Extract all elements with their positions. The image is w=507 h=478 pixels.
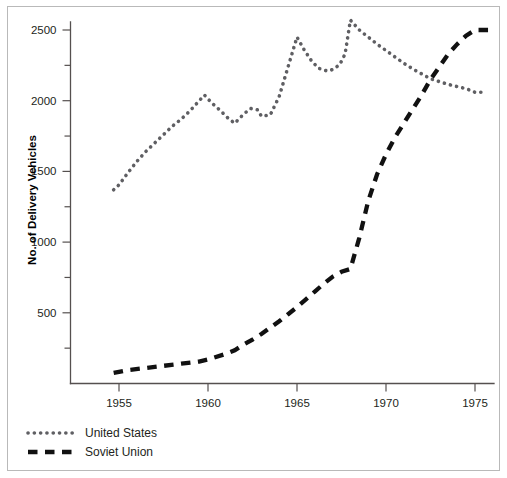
legend-label-soviet-union: Soviet Union	[85, 445, 153, 459]
y-axis-ticks	[63, 30, 71, 348]
x-axis-ticks	[119, 384, 475, 392]
chart-plot-area: 5001000150020002500 19551960196519701975…	[0, 0, 507, 478]
x-tick-label: 1975	[462, 397, 488, 409]
x-tick-label: 1955	[106, 397, 132, 409]
y-tick-label: 2500	[31, 24, 57, 36]
series-line-soviet-union	[114, 30, 493, 373]
chart-legend: United States Soviet Union	[28, 426, 157, 459]
x-tick-label: 1960	[195, 397, 221, 409]
series-line-united-states	[114, 20, 484, 190]
chart-figure: 5001000150020002500 19551960196519701975…	[0, 0, 507, 478]
y-axis-title: No. of Delivery Vehicles	[26, 135, 38, 265]
x-tick-label: 1965	[284, 397, 310, 409]
y-tick-label: 500	[37, 307, 56, 319]
legend-label-united-states: United States	[85, 426, 157, 440]
y-tick-label: 2000	[31, 95, 57, 107]
x-axis-tick-labels: 19551960196519701975	[106, 397, 488, 409]
x-tick-label: 1970	[373, 397, 399, 409]
